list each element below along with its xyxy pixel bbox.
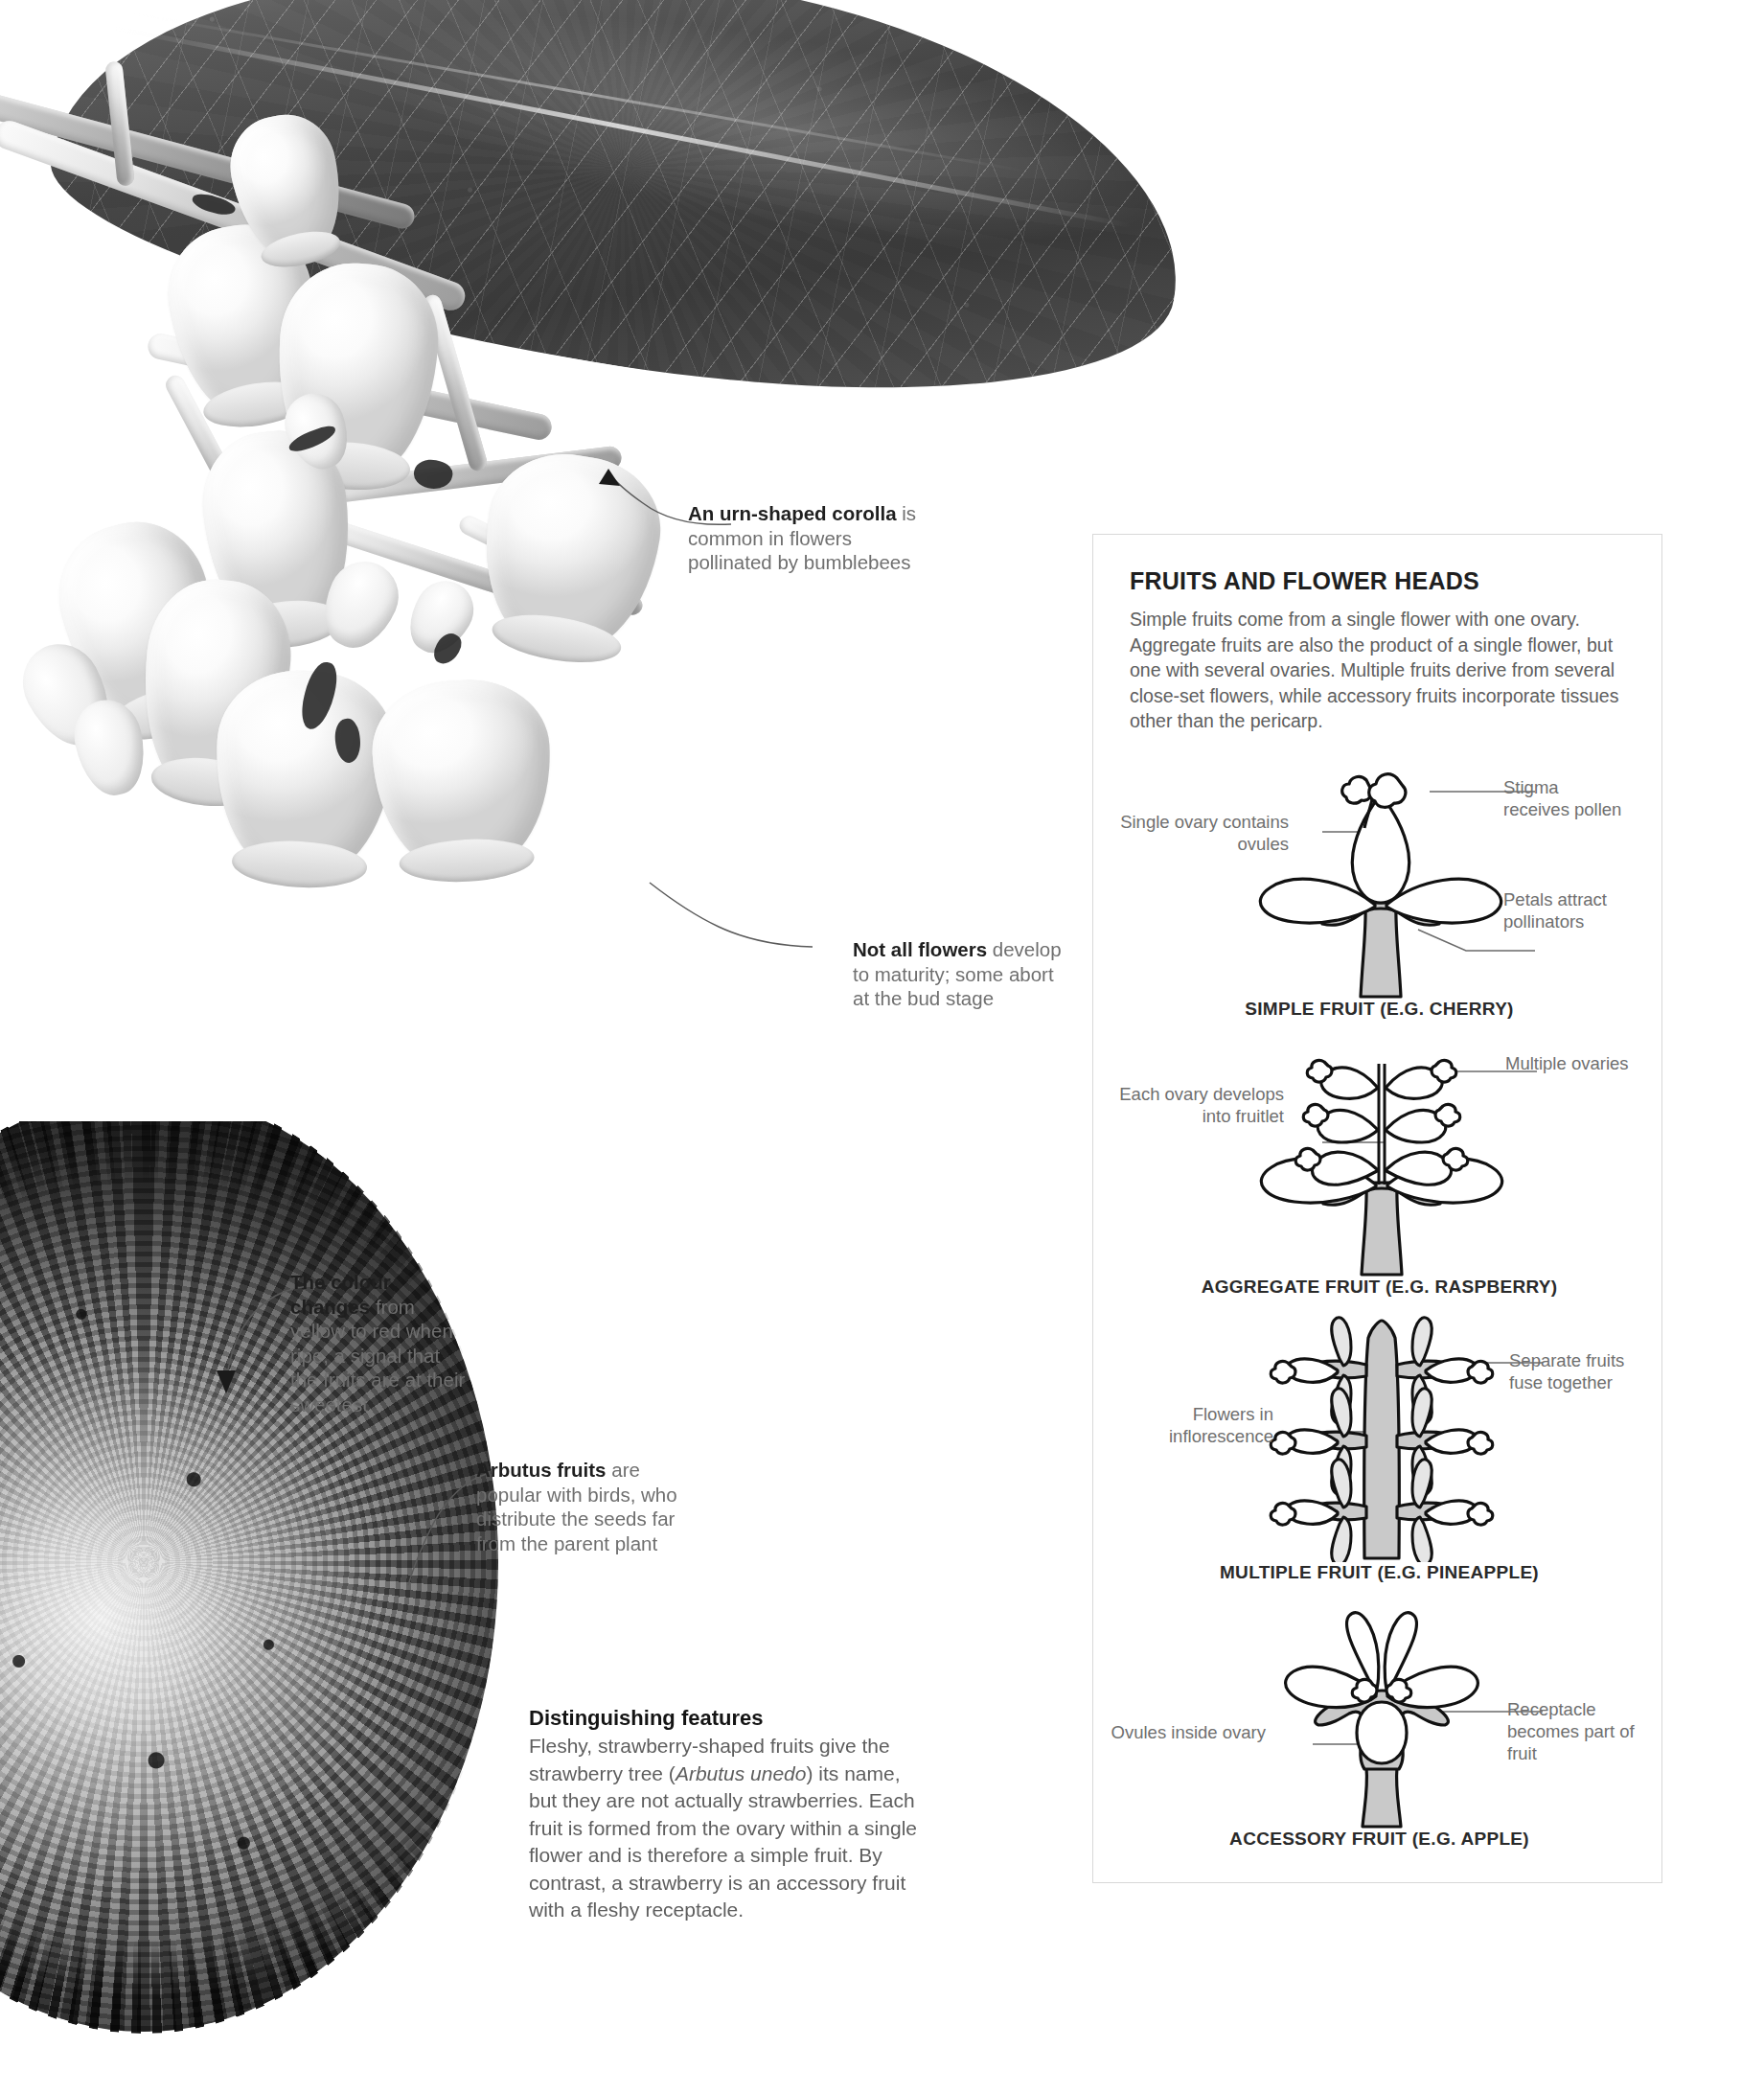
diagram-simple-fruit: Single ovary contains ovules Stigma rece… bbox=[1130, 759, 1629, 1008]
fruit-photograph bbox=[0, 1121, 498, 2094]
label-multiple-ovaries: Multiple ovaries bbox=[1505, 1052, 1630, 1074]
label-each-ovary: Each ovary develops into fruitlet bbox=[1107, 1083, 1284, 1127]
callout-urn-corolla: An urn-shaped corolla is common in flowe… bbox=[688, 501, 918, 575]
features-paragraph: Fleshy, strawberry-shaped fruits give th… bbox=[529, 1733, 931, 1924]
label-ovules-inside-ovary: Ovules inside ovary bbox=[1103, 1721, 1266, 1743]
diagram-multiple-fruit: Flowers in inflorescence Separate fruits… bbox=[1130, 1311, 1629, 1576]
corolla-lip bbox=[399, 836, 536, 885]
callout-flower-abortion-bold: Not all flowers bbox=[853, 938, 987, 960]
diagram-accessory-fruit: Ovules inside ovary Receptacle becomes p… bbox=[1130, 1599, 1629, 1838]
caption-multiple-fruit: MULTIPLE FRUIT (E.G. PINEAPPLE) bbox=[1130, 1562, 1629, 1583]
label-flowers-inflorescence: Flowers in inflorescence bbox=[1101, 1403, 1273, 1447]
label-petals: Petals attract pollinators bbox=[1503, 888, 1647, 932]
label-single-ovary: Single ovary contains ovules bbox=[1107, 811, 1289, 855]
species-name: Arbutus unedo bbox=[676, 1762, 807, 1784]
label-receptacle: Receptacle becomes part of fruit bbox=[1507, 1698, 1651, 1764]
features-text-part-2: ) its name, but they are not actually st… bbox=[529, 1762, 917, 1921]
diagram-aggregate-fruit: Each ovary develops into fruitlet Multip… bbox=[1130, 1029, 1629, 1290]
label-stigma: Stigma receives pollen bbox=[1503, 776, 1628, 820]
callout-flower-abortion: Not all flowers develop to maturity; som… bbox=[853, 937, 1073, 1011]
features-heading: Distinguishing features bbox=[529, 1706, 931, 1731]
caption-accessory-fruit: ACCESSORY FRUIT (E.G. APPLE) bbox=[1130, 1829, 1629, 1850]
callout-birds-disperse-bold: Arbutus fruits bbox=[476, 1459, 607, 1481]
urn-flower bbox=[369, 676, 556, 876]
caption-aggregate-fruit: AGGREGATE FRUIT (E.G. RASPBERRY) bbox=[1130, 1277, 1629, 1298]
panel-title: FRUITS AND FLOWER HEADS bbox=[1130, 567, 1629, 595]
callout-birds-disperse: Arbutus fruits are popular with birds, w… bbox=[476, 1458, 697, 1555]
corolla-lip bbox=[231, 839, 368, 891]
panel-intro-text: Simple fruits come from a single flower … bbox=[1130, 607, 1629, 734]
callout-urn-corolla-bold: An urn-shaped corolla bbox=[688, 502, 897, 524]
fruits-and-flower-heads-panel: FRUITS AND FLOWER HEADS Simple fruits co… bbox=[1092, 534, 1662, 1883]
distinguishing-features-block: Distinguishing features Fleshy, strawber… bbox=[529, 1706, 931, 1924]
label-separate-fruits-fuse: Separate fruits fuse together bbox=[1509, 1349, 1643, 1393]
callout-colour-change: The colour changes from yellow to red wh… bbox=[290, 1270, 472, 1416]
caption-simple-fruit: SIMPLE FRUIT (E.G. CHERRY) bbox=[1130, 999, 1629, 1020]
corolla-lip bbox=[489, 608, 625, 671]
leader-line-flower-abortion bbox=[575, 877, 814, 958]
page-root: An urn-shaped corolla is common in flowe… bbox=[0, 0, 1764, 2094]
